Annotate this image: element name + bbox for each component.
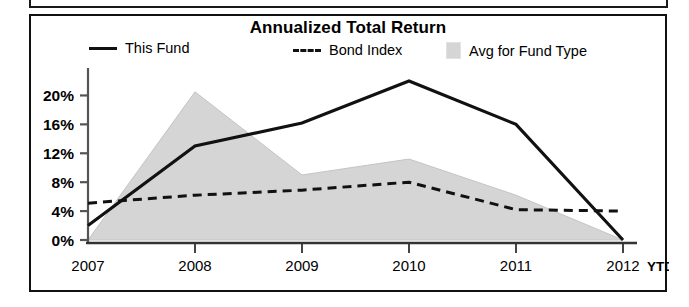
svg-text:2010: 2010: [392, 257, 425, 274]
x-axis-ytd-label: YTD: [647, 259, 669, 274]
svg-text:2012: 2012: [606, 257, 639, 274]
svg-text:2008: 2008: [178, 257, 211, 274]
svg-text:12%: 12%: [43, 145, 74, 162]
x-axis-ticks: [195, 244, 623, 253]
svg-text:8%: 8%: [52, 174, 75, 191]
y-axis-labels: 0%4%8%12%16%20%: [43, 87, 74, 249]
y-axis-ticks: [80, 95, 87, 240]
svg-text:2011: 2011: [500, 257, 532, 274]
svg-text:20%: 20%: [43, 87, 74, 104]
svg-text:4%: 4%: [52, 203, 75, 220]
svg-text:16%: 16%: [43, 116, 74, 133]
svg-text:0%: 0%: [52, 232, 75, 249]
clipped-top-panel: [29, 0, 668, 8]
plot-area: 0%4%8%12%16%20% 200720082009201020112012…: [31, 16, 669, 294]
annualized-total-return-panel: Annualized Total Return This Fund Bond I…: [29, 14, 667, 292]
svg-text:2007: 2007: [71, 257, 104, 274]
x-axis-labels: 200720082009201020112012: [71, 257, 639, 274]
chart-svg: 0%4%8%12%16%20% 200720082009201020112012…: [31, 16, 669, 294]
chart-screenshot: Annualized Total Return This Fund Bond I…: [0, 0, 689, 307]
svg-text:2009: 2009: [285, 257, 318, 274]
